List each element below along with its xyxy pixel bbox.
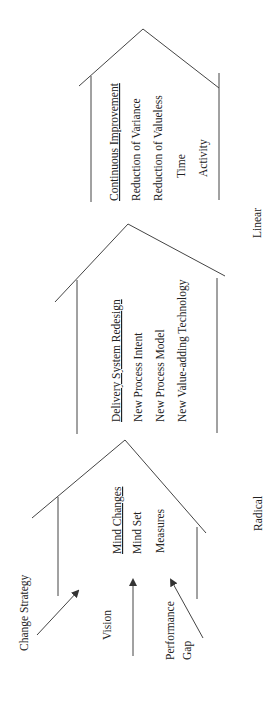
house-radical-title: Mind Changes: [111, 486, 124, 554]
vision-label: Vision: [101, 610, 113, 640]
change-strategy-diagram: Continuous Improvement Reduction of Vari…: [0, 0, 267, 703]
house-radical-item: Measures: [154, 508, 166, 553]
axis-label-linear: Linear: [251, 208, 263, 238]
house-linear: Continuous Improvement Reduction of Vari…: [79, 29, 219, 202]
change-strategy-arrow-icon: [37, 591, 78, 635]
house-linear-item: Time: [175, 154, 187, 178]
house-linear-item: Reduction of Variance: [130, 98, 142, 201]
house-linear-item: Reduction of Valueless: [152, 95, 164, 201]
performance-label: Performance: [164, 601, 176, 660]
house-linear-item: Activity: [197, 139, 210, 177]
house-redesign-roof: [55, 224, 225, 302]
change-strategy-label: Change Strategy: [18, 574, 31, 651]
house-redesign: Delivery System Redesign New Process Int…: [55, 224, 225, 434]
gap-label: Gap: [181, 641, 194, 660]
house-radical-item: Mind Set: [131, 511, 143, 554]
house-linear-title: Continuous Improvement: [108, 82, 121, 201]
house-redesign-item: New Value-adding Technology: [176, 279, 189, 422]
house-radical: Mind Changes Mind Set Measures: [32, 440, 206, 599]
house-redesign-title: Delivery System Redesign: [110, 299, 123, 422]
house-linear-roof: [79, 29, 219, 88]
house-redesign-item: New Process Intent: [132, 332, 144, 422]
house-redesign-item: New Process Model: [154, 329, 166, 422]
axis-label-radical: Radical: [252, 496, 264, 531]
inputs: Change Strategy Vision Performance Gap: [18, 574, 203, 660]
